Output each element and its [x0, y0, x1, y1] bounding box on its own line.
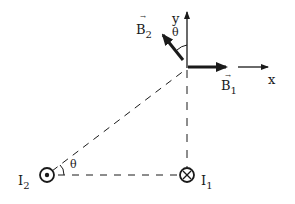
- theta-top-label: θ: [172, 26, 179, 39]
- theta-arc-bottom: [60, 165, 64, 175]
- b1-label: B1: [221, 78, 237, 96]
- b2-label: B2: [136, 22, 152, 40]
- dashed-hypotenuse: [52, 70, 185, 171]
- x-axis-label: x: [268, 72, 276, 87]
- i2-label: I2: [18, 173, 30, 191]
- i1-cross-symbol: [180, 168, 194, 182]
- i2-dot-symbol: [40, 168, 54, 182]
- y-axis-label: y: [171, 11, 180, 26]
- diagram-canvas: y x → B1 → B2 θ θ I2 I1: [0, 0, 295, 204]
- theta-bottom-label: θ: [70, 158, 77, 171]
- i1-label: I1: [201, 173, 213, 191]
- theta-arc-top: [177, 45, 187, 50]
- b2-vec-arrow: →: [140, 13, 146, 21]
